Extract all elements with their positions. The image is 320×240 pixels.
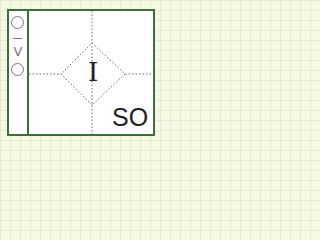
circle-icon bbox=[11, 16, 24, 29]
dash-icon bbox=[13, 38, 22, 39]
circle-icon bbox=[11, 63, 24, 76]
center-label: I bbox=[88, 57, 98, 87]
chevron-down-icon: V bbox=[9, 45, 27, 59]
diagram-frame: V I SO bbox=[7, 9, 155, 136]
symbol-column: V bbox=[9, 11, 29, 134]
corner-label: SO bbox=[112, 103, 148, 132]
